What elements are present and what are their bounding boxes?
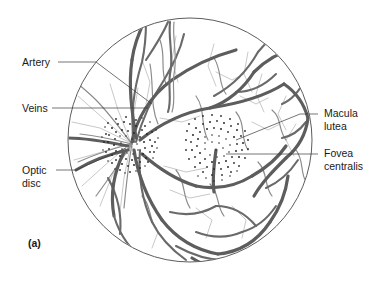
veins-label: Veins [22, 102, 48, 114]
optic-disc-label-line2: disc [22, 177, 41, 189]
optic-disc-label-line1: Optic [22, 164, 47, 176]
fovea-centralis-label-line1: Fovea [324, 147, 353, 159]
figure-caption: (a) [28, 237, 41, 249]
fundus-diagram-canvas: Artery Veins Optic disc Macula lutea Fov… [0, 0, 380, 281]
fovea-centralis-label-line2: centralis [324, 160, 363, 172]
macula-lutea-label-line1: Macula [324, 107, 358, 119]
artery-label: Artery [22, 56, 51, 68]
macula-lutea-label-line2: lutea [324, 120, 347, 132]
retina-fundus-figure: Artery Veins Optic disc Macula lutea Fov… [0, 0, 380, 281]
